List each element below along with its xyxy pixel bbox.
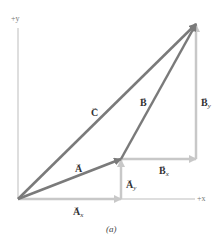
arrow-over-icon: → [140, 93, 147, 103]
label-By: →By [201, 98, 211, 111]
label-Bx: →Bx [159, 166, 169, 179]
label-C: →C [91, 108, 98, 118]
arrow-over-icon: → [159, 161, 166, 171]
label-B: →B [140, 98, 147, 108]
label-Ax: →Ax [73, 207, 83, 220]
label-Ay: →Ay [126, 180, 136, 193]
arrow-over-icon: → [201, 93, 208, 103]
y-axis-label: +y [11, 14, 20, 23]
x-axis-label: +x [197, 194, 206, 203]
arrow-over-icon: → [126, 175, 133, 185]
vector-diagram [0, 0, 223, 237]
arrow-over-icon: → [75, 159, 82, 169]
vector-C [18, 24, 196, 199]
arrow-over-icon: → [91, 103, 98, 113]
label-A: →A [75, 164, 82, 174]
vector-B [121, 24, 196, 159]
vector-A [18, 159, 121, 199]
arrow-over-icon: → [73, 202, 80, 212]
figure-caption: (a) [106, 224, 117, 234]
